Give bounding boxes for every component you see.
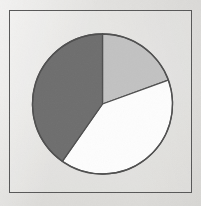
pie-slices-group <box>33 34 173 174</box>
pie-chart-canvas <box>0 0 201 206</box>
pie-chart-figure: Pie chart with three slices: light gray,… <box>0 0 201 206</box>
